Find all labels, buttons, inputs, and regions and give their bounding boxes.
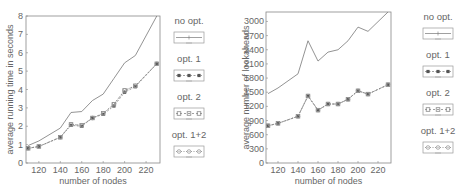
asterisk-marker — [426, 70, 429, 73]
x-tick-label: 220 — [139, 165, 154, 175]
legend-label: no opt. — [174, 15, 203, 26]
y-tick-label: 7 — [18, 29, 23, 39]
asterisk-marker — [197, 74, 200, 77]
x-tick-label: 160 — [74, 165, 89, 175]
asterisk-marker — [436, 70, 439, 73]
legend-label: opt. 2 — [426, 87, 450, 98]
asterisk-marker — [177, 74, 180, 77]
x-tick-label: 140 — [53, 165, 68, 175]
running-time-chart: 120140160180200220012345678number of nod… — [5, 11, 160, 186]
legend-label: no opt. — [423, 11, 452, 22]
x-axis-label: number of nodes — [59, 176, 127, 186]
series-line — [28, 16, 157, 146]
legend-label: opt. 1 — [177, 53, 201, 64]
plot-frame — [266, 12, 391, 163]
y-axis-label: average number of lookaheads — [241, 25, 251, 150]
asterisk-marker — [187, 74, 190, 77]
y-tick-label: 6 — [18, 48, 23, 58]
x-tick-label: 200 — [117, 165, 132, 175]
y-tick-label: 600 — [249, 130, 264, 140]
charts-figure: 120140160180200220012345678number of nod… — [0, 0, 462, 187]
x-tick-label: 120 — [31, 165, 46, 175]
series-group — [266, 12, 390, 128]
legend-left: no opt.opt. 1opt. 2opt. 1+2 — [172, 15, 207, 157]
series-group — [26, 16, 158, 150]
legend-right: no opt.opt. 1opt. 2opt. 1+2 — [421, 11, 456, 153]
y-tick-label: 0 — [259, 158, 264, 168]
y-tick-label: 300 — [249, 144, 264, 154]
y-tick-label: 8 — [18, 11, 23, 21]
x-tick-label: 120 — [270, 165, 285, 175]
y-tick-label: 2 — [18, 121, 23, 131]
lookaheads-chart: 1201401601802002200300600900120015001800… — [241, 12, 391, 186]
y-tick-label: 5 — [18, 66, 23, 76]
y-tick-label: 1 — [18, 140, 23, 150]
y-tick-label: 0 — [18, 158, 23, 168]
plot-frame — [26, 16, 160, 163]
legend-label: opt. 1+2 — [421, 125, 456, 136]
legend-label: opt. 2 — [177, 91, 201, 102]
y-tick-label: 900 — [249, 116, 264, 126]
asterisk-marker — [446, 70, 449, 73]
x-tick-label: 160 — [310, 165, 325, 175]
series-line — [268, 12, 388, 94]
y-tick-label: 3000 — [244, 16, 264, 26]
y-tick-label: 3 — [18, 103, 23, 113]
legend-label: opt. 1+2 — [172, 129, 207, 140]
y-axis-label: average running time in seconds — [5, 24, 15, 155]
x-axis-label: number of nodes — [295, 176, 363, 186]
x-tick-label: 180 — [330, 165, 345, 175]
legend-label: opt. 1 — [426, 49, 450, 60]
x-tick-label: 140 — [290, 165, 305, 175]
x-tick-label: 180 — [96, 165, 111, 175]
x-tick-label: 220 — [370, 165, 385, 175]
x-tick-label: 200 — [350, 165, 365, 175]
y-tick-label: 4 — [18, 85, 23, 95]
